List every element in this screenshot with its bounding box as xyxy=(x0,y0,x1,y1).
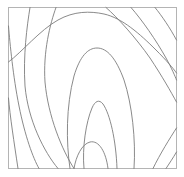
contour-plot-figure xyxy=(0,0,184,177)
contour-plot-canvas xyxy=(0,0,184,177)
